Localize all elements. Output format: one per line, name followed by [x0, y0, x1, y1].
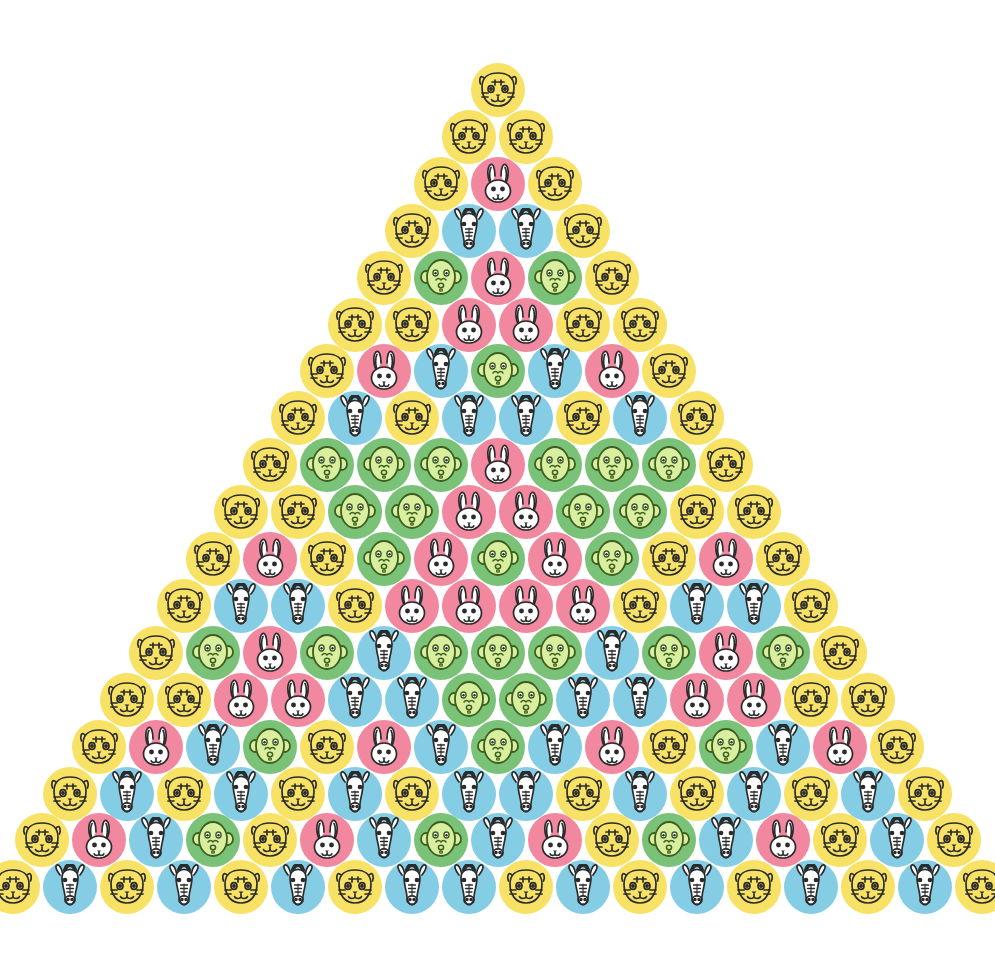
- monkey-face-icon: [419, 631, 463, 675]
- tiger-face-icon: [590, 819, 634, 861]
- tiger-face-icon: [618, 866, 662, 908]
- pyramid-cell[interactable]: [213, 859, 270, 915]
- monkey-face-icon: [504, 678, 548, 722]
- zebra-face-icon: [619, 771, 661, 817]
- zebra-face-icon: [363, 817, 405, 863]
- zebra-sticker[interactable]: [898, 860, 952, 914]
- monkey-face-icon: [647, 818, 691, 862]
- zebra-face-icon: [334, 771, 376, 817]
- tiger-face-icon: [675, 773, 719, 815]
- pyramid-cell[interactable]: [99, 859, 156, 915]
- zebra-sticker[interactable]: [556, 860, 610, 914]
- pyramid-cell[interactable]: [783, 859, 840, 915]
- rabbit-face-icon: [249, 537, 291, 581]
- pyramid-cell[interactable]: [612, 859, 669, 915]
- pyramid-cell[interactable]: [42, 859, 99, 915]
- tiger-face-icon: [362, 257, 406, 299]
- rabbit-face-icon: [591, 725, 633, 769]
- zebra-face-icon: [733, 771, 775, 817]
- rabbit-face-icon: [477, 443, 519, 487]
- tiger-face-icon: [77, 726, 121, 768]
- rabbit-face-icon: [277, 678, 319, 722]
- rabbit-face-icon: [363, 349, 405, 393]
- rabbit-face-icon: [505, 303, 547, 347]
- monkey-face-icon: [561, 490, 605, 534]
- zebra-face-icon: [477, 817, 519, 863]
- tiger-face-icon: [248, 819, 292, 861]
- pyramid-cell[interactable]: [0, 859, 42, 915]
- tiger-sticker[interactable]: [841, 860, 895, 914]
- zebra-face-icon: [49, 864, 91, 910]
- monkey-face-icon: [447, 678, 491, 722]
- monkey-face-icon: [362, 537, 406, 581]
- rabbit-face-icon: [477, 256, 519, 300]
- pyramid-cell[interactable]: [669, 859, 726, 915]
- tiger-face-icon: [162, 773, 206, 815]
- zebra-face-icon: [135, 817, 177, 863]
- tiger-face-icon: [789, 585, 833, 627]
- tiger-sticker[interactable]: [613, 860, 667, 914]
- zebra-face-icon: [505, 395, 547, 441]
- pyramid-cell[interactable]: [327, 859, 384, 915]
- zebra-sticker[interactable]: [784, 860, 838, 914]
- monkey-face-icon: [761, 631, 805, 675]
- pyramid-cell[interactable]: [156, 859, 213, 915]
- monkey-face-icon: [590, 443, 634, 487]
- monkey-face-icon: [533, 631, 577, 675]
- zebra-sticker[interactable]: [385, 860, 439, 914]
- tiger-sticker[interactable]: [214, 860, 268, 914]
- rabbit-face-icon: [391, 584, 433, 628]
- tiger-face-icon: [48, 773, 92, 815]
- zebra-face-icon: [762, 724, 804, 770]
- tiger-face-icon: [191, 538, 235, 580]
- pyramid-cell[interactable]: [270, 859, 327, 915]
- zebra-face-icon: [163, 864, 205, 910]
- zebra-sticker[interactable]: [157, 860, 211, 914]
- zebra-sticker[interactable]: [670, 860, 724, 914]
- monkey-face-icon: [305, 443, 349, 487]
- pyramid-cell[interactable]: [726, 859, 783, 915]
- tiger-face-icon: [647, 726, 691, 768]
- tiger-face-icon: [333, 304, 377, 346]
- pyramid-cell[interactable]: [384, 859, 441, 915]
- pyramid-cell[interactable]: [840, 859, 897, 915]
- zebra-face-icon: [106, 771, 148, 817]
- tiger-face-icon: [846, 679, 890, 721]
- tiger-face-icon: [333, 866, 377, 908]
- tiger-face-icon: [732, 491, 776, 533]
- tiger-sticker[interactable]: [100, 860, 154, 914]
- rabbit-face-icon: [733, 678, 775, 722]
- tiger-sticker[interactable]: [328, 860, 382, 914]
- zebra-face-icon: [277, 583, 319, 629]
- pyramid-cell[interactable]: [555, 859, 612, 915]
- zebra-face-icon: [277, 864, 319, 910]
- zebra-face-icon: [876, 817, 918, 863]
- rabbit-face-icon: [477, 162, 519, 206]
- tiger-face-icon: [20, 819, 64, 861]
- rabbit-face-icon: [534, 818, 576, 862]
- tiger-sticker[interactable]: [0, 860, 40, 914]
- zebra-face-icon: [562, 864, 604, 910]
- tiger-sticker[interactable]: [727, 860, 781, 914]
- pyramid-cell[interactable]: [498, 859, 555, 915]
- zebra-sticker[interactable]: [271, 860, 325, 914]
- tiger-face-icon: [333, 585, 377, 627]
- tiger-face-icon: [875, 726, 919, 768]
- tiger-sticker[interactable]: [499, 860, 553, 914]
- monkey-face-icon: [590, 537, 634, 581]
- zebra-sticker[interactable]: [43, 860, 97, 914]
- monkey-face-icon: [618, 490, 662, 534]
- pyramid-cell[interactable]: [954, 859, 995, 915]
- tiger-face-icon: [390, 773, 434, 815]
- pyramid-cell[interactable]: [441, 859, 498, 915]
- tiger-face-icon: [761, 538, 805, 580]
- pyramid-cell[interactable]: [897, 859, 954, 915]
- monkey-face-icon: [362, 443, 406, 487]
- rabbit-face-icon: [78, 818, 120, 862]
- zebra-face-icon: [705, 817, 747, 863]
- tiger-sticker[interactable]: [955, 860, 995, 914]
- monkey-face-icon: [248, 725, 292, 769]
- tiger-face-icon: [504, 116, 548, 158]
- rabbit-face-icon: [819, 725, 861, 769]
- zebra-sticker[interactable]: [442, 860, 496, 914]
